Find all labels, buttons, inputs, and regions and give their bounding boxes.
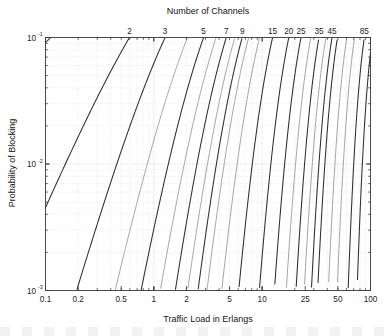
series-curve-4-channels [115,38,187,290]
x-tick-label: 0.5 [116,295,128,304]
series-curve-1-channels [46,38,51,43]
y-tick-label-mantissa: 10 [27,160,37,169]
x-tick-label: 10 [258,295,268,304]
top-axis-channel-label-45: 45 [327,27,337,36]
series-curve-25-channels [275,38,301,284]
y-tick-label-mantissa: 10 [27,287,37,296]
y-tick-label: 10-2 [27,158,43,170]
top-axis-channel-label-35: 35 [314,27,324,36]
top-axis-tick-labels: 23579152025354585 [127,27,369,36]
series-curve-7-channels [176,38,227,289]
x-tick-label: 5 [227,295,232,304]
y-tick-label-exponent: -2 [38,158,43,164]
top-axis-channel-label-3: 3 [163,27,168,36]
x-tick-label: 100 [364,295,378,304]
top-axis-channel-label-85: 85 [360,27,370,36]
top-axis-channel-label-7: 7 [224,27,229,36]
x-tick-label: 2 [184,295,189,304]
x-tick-label: 0.2 [72,295,84,304]
top-axis-channel-label-20: 20 [284,27,294,36]
caption-smudge [0,327,388,336]
y-tick-label-mantissa: 10 [27,34,37,43]
series-curve-15-channels [239,38,272,287]
x-tick-label: 0.1 [40,295,52,304]
top-axis-channel-label-9: 9 [240,27,245,36]
erlang-b-chart-figure: 0.10.20.5125102550100 10-110-210-3 23579… [0,0,388,336]
y-axis-title: Probability of Blocking [7,119,17,208]
y-tick-label: 10-1 [27,31,43,43]
x-axis-title: Traffic Load in Erlangs [163,314,253,324]
y-tick-label-exponent: -1 [38,31,43,37]
series-curve-8-channels [188,39,234,288]
series-curve-40-channels [305,38,326,285]
top-axis-channel-label-25: 25 [296,27,306,36]
x-axis-tick-labels: 0.10.20.5125102550100 [40,295,378,304]
top-axis-channel-label-2: 2 [127,27,132,36]
top-axis-channel-label-5: 5 [201,27,206,36]
y-tick-label-exponent: -3 [38,284,43,290]
chart-canvas: 0.10.20.5125102550100 10-110-210-3 23579… [0,0,388,336]
x-tick-label: 50 [333,295,343,304]
series-curve-70-channels [338,40,355,282]
y-axis-tick-labels: 10-110-210-3 [27,31,43,296]
x-tick-label: 25 [301,295,311,304]
top-axis-channel-label-15: 15 [268,27,278,36]
series-curve-2-channels [46,38,130,207]
gridlines [46,38,371,291]
x-tick-label: 1 [152,295,157,304]
series-curve-35-channels [296,40,318,286]
series-curve-85-channels [348,40,364,288]
top-axis-title: Number of Channels [167,6,250,16]
